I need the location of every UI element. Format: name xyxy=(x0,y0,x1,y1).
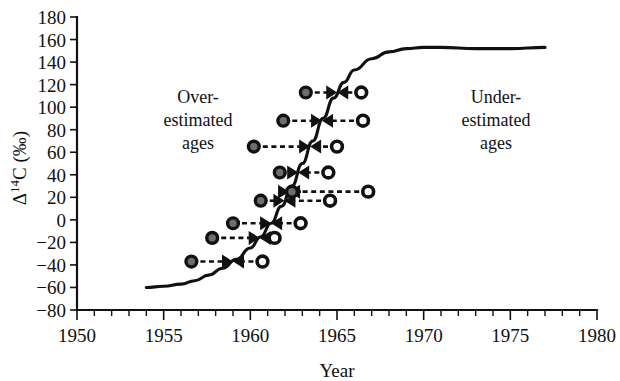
filled-sample-marker xyxy=(287,186,298,197)
x-axis-tick-labels: 1950195519601965197019751980 xyxy=(58,325,616,346)
x-tick-label: 1950 xyxy=(58,325,96,346)
y-tick-label: 100 xyxy=(38,97,67,118)
open-sample-marker xyxy=(363,186,374,197)
x-tick-label: 1980 xyxy=(578,325,616,346)
open-sample-marker xyxy=(295,218,306,229)
x-tick-label: 1970 xyxy=(405,325,443,346)
y-tick-label: −20 xyxy=(36,232,66,253)
y-tick-label: 160 xyxy=(38,30,67,51)
filled-sample-marker xyxy=(274,167,285,178)
y-tick-label: 0 xyxy=(57,210,67,231)
svg-text:estimated: estimated xyxy=(164,110,233,130)
sample-pair xyxy=(287,166,319,180)
sample-pair xyxy=(292,114,354,128)
x-tick-label: 1960 xyxy=(231,325,269,346)
annotation-over-estimated-ages: Over- estimated ages xyxy=(164,87,233,153)
y-tick-label: 120 xyxy=(38,75,67,96)
open-sample-marker xyxy=(358,115,369,126)
y-axis: −80−60−40−20020406080100120140160180 Δ14… xyxy=(7,7,77,321)
x-axis: 1950195519601965197019751980 Year xyxy=(58,310,616,381)
filled-sample-marker xyxy=(228,218,239,229)
y-tick-label: 40 xyxy=(47,165,66,186)
y-tick-label: 20 xyxy=(47,187,66,208)
filled-sample-marker xyxy=(278,115,289,126)
svg-text:Over-: Over- xyxy=(177,87,219,107)
sample-pair xyxy=(263,140,328,154)
x-tick-label: 1965 xyxy=(318,325,356,346)
filled-sample-marker xyxy=(255,195,266,206)
x-tick-label: 1975 xyxy=(491,325,529,346)
y-tick-label: 60 xyxy=(47,142,66,163)
filled-sample-marker xyxy=(248,141,259,152)
y-tick-label: 140 xyxy=(38,52,67,73)
bomb-curve-line xyxy=(146,47,545,287)
filled-sample-marker xyxy=(186,256,197,267)
open-sample-marker xyxy=(332,141,343,152)
delta14c-bomb-curve-chart: Over- estimated ages Under- estimated ag… xyxy=(0,0,620,381)
annotation-under-estimated-ages: Under- estimated ages xyxy=(462,87,531,153)
svg-text:Δ14C (‰): Δ14C (‰) xyxy=(7,131,31,205)
filled-sample-marker xyxy=(300,87,311,98)
x-axis-title: Year xyxy=(319,360,355,381)
open-sample-marker xyxy=(325,195,336,206)
svg-text:estimated: estimated xyxy=(462,110,531,130)
chart-figure: Over- estimated ages Under- estimated ag… xyxy=(0,0,620,381)
svg-text:ages: ages xyxy=(182,133,214,153)
y-axis-title: Δ14C (‰) xyxy=(7,131,31,205)
y-tick-label: 180 xyxy=(38,7,67,28)
open-sample-marker xyxy=(323,167,334,178)
y-axis-tick-labels: −80−60−40−20020406080100120140160180 xyxy=(36,7,66,321)
x-axis-ticks xyxy=(77,310,597,320)
filled-sample-marker xyxy=(207,232,218,243)
svg-text:Under-: Under- xyxy=(471,87,522,107)
y-tick-label: −80 xyxy=(36,300,66,321)
open-sample-marker xyxy=(257,256,268,267)
y-tick-label: −60 xyxy=(36,277,66,298)
y-tick-label: −40 xyxy=(36,255,66,276)
svg-text:ages: ages xyxy=(480,133,512,153)
x-tick-label: 1955 xyxy=(145,325,183,346)
open-sample-marker xyxy=(269,232,280,243)
open-sample-marker xyxy=(356,87,367,98)
y-tick-label: 80 xyxy=(47,120,66,141)
